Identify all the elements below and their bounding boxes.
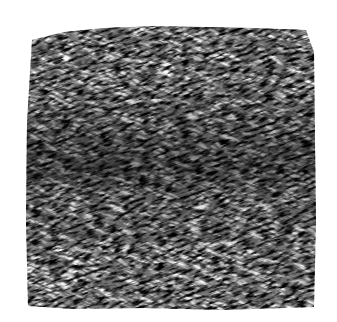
grass-texture-patch [24, 22, 316, 311]
texture-svg [24, 22, 316, 311]
image-canvas [0, 0, 337, 322]
